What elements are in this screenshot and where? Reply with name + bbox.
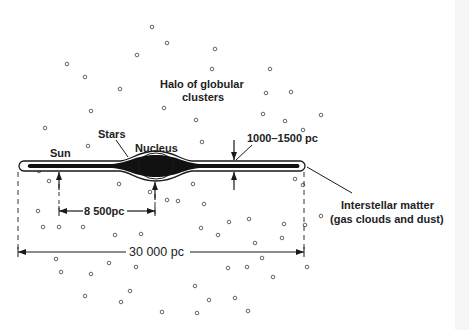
interstellar-leader (307, 167, 352, 193)
globular-cluster-dot (191, 182, 195, 186)
thickness-leader (236, 145, 252, 160)
globular-cluster-dot (118, 87, 122, 91)
globular-cluster-dot (207, 298, 211, 302)
globular-cluster-dot (36, 209, 40, 213)
sun-label: Sun (50, 147, 71, 159)
globular-cluster-dot (117, 182, 121, 186)
diameter-label: 30 000 pc (129, 245, 184, 259)
stars-leader (116, 140, 128, 157)
globular-cluster-dot (195, 311, 199, 315)
globular-cluster-dot (119, 300, 123, 304)
globular-cluster-dot (213, 47, 217, 51)
globular-cluster-dot (59, 270, 63, 274)
globular-cluster-dot (41, 225, 45, 229)
globular-cluster-dot (160, 310, 164, 314)
galaxy-diagram: Halo of globular clusters Stars Nucleus … (0, 0, 469, 330)
globular-cluster-dot (253, 241, 257, 245)
globular-cluster-dot (194, 118, 198, 122)
nucleus-label: Nucleus (135, 142, 178, 154)
globular-cluster-dot (199, 226, 203, 230)
globular-cluster-dot (89, 272, 93, 276)
thickness-label: 1000–1500 pc (247, 132, 318, 144)
globular-cluster-dot (86, 144, 90, 148)
globular-cluster-dot (134, 265, 138, 269)
globular-cluster-dot (57, 225, 61, 229)
globular-cluster-dot (165, 198, 169, 202)
globular-cluster-dot (283, 119, 287, 123)
globular-cluster-dot (245, 265, 249, 269)
stars-label: Stars (98, 128, 126, 140)
globular-cluster-dot (202, 202, 206, 206)
globular-cluster-dot (81, 225, 85, 229)
globular-cluster-dot (246, 309, 250, 313)
globular-cluster-dot (47, 179, 51, 183)
globular-cluster-dot (150, 25, 154, 29)
interstellar-label-line2: (gas clouds and dust) (330, 213, 444, 225)
globular-cluster-dot (319, 113, 323, 117)
globular-cluster-dot (210, 67, 214, 71)
globular-cluster-dot (282, 222, 286, 226)
globular-cluster-dot (193, 284, 197, 288)
globular-cluster-dot (268, 67, 272, 71)
globular-cluster-dot (113, 233, 117, 237)
globular-cluster-dot (162, 106, 166, 110)
globular-cluster-dot (233, 296, 237, 300)
globular-cluster-dot (128, 289, 132, 293)
globular-cluster-dot (83, 75, 87, 79)
globular-cluster-dot (165, 41, 169, 45)
globular-cluster-dot (216, 233, 220, 237)
globular-cluster-dot (65, 62, 69, 66)
halo-label-line1: Halo of globular (160, 78, 244, 90)
globular-cluster-dot (176, 199, 180, 203)
globular-cluster-dot (319, 214, 323, 218)
globular-cluster-dot (227, 220, 231, 224)
globular-cluster-dot (264, 91, 268, 95)
globular-cluster-dot (107, 261, 111, 265)
halo-label-line2: clusters (182, 91, 224, 103)
globular-cluster-dot (226, 266, 230, 270)
globular-cluster-dot (148, 190, 152, 194)
globular-cluster-dot (139, 232, 143, 236)
globular-cluster-dot (280, 236, 284, 240)
globular-cluster-dot (247, 217, 251, 221)
interstellar-label-line1: Interstellar matter (341, 199, 435, 211)
globular-cluster-dot (271, 275, 275, 279)
globular-cluster-dot (305, 265, 309, 269)
globular-cluster-dot (89, 109, 93, 113)
globular-cluster-dot (135, 53, 139, 57)
globular-cluster-dot (200, 140, 204, 144)
globular-cluster-dot (83, 294, 87, 298)
sun-distance-label: 8 500pc (84, 205, 124, 217)
globular-cluster-dot (54, 257, 58, 261)
globular-cluster-dot (293, 177, 297, 181)
globular-cluster-dot (289, 90, 293, 94)
globular-cluster-dot (260, 256, 264, 260)
globular-cluster-dot (261, 112, 265, 116)
globular-cluster-dot (43, 126, 47, 130)
